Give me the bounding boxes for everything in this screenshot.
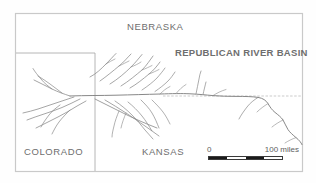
label-nebraska: NEBRASKA	[127, 21, 184, 32]
label-colorado: COLORADO	[24, 146, 83, 157]
map-title: REPUBLICAN RIVER BASIN	[175, 47, 308, 58]
scale-bar-min-label: 0	[207, 145, 211, 154]
scale-bar-segment	[227, 157, 245, 159]
scale-bar-max-label: 100 miles	[265, 145, 299, 154]
label-kansas: KANSAS	[142, 146, 184, 157]
scale-bar-segment	[264, 157, 282, 159]
scale-bar-segment	[246, 157, 264, 159]
map-figure: NEBRASKA REPUBLICAN RIVER BASIN COLORADO…	[0, 0, 316, 183]
scale-bar-segment	[209, 157, 227, 159]
scale-bar: 0 100 miles	[207, 145, 299, 165]
scale-bar-track	[208, 156, 283, 160]
